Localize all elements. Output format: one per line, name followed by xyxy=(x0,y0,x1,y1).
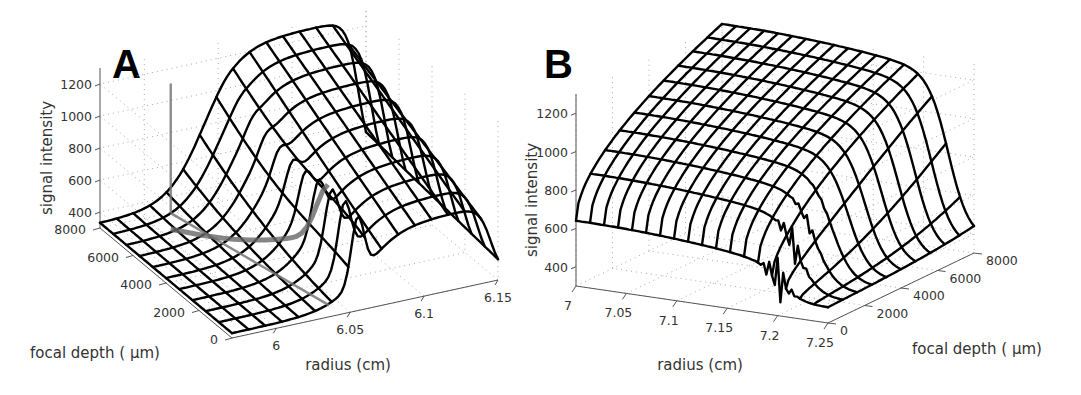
z-tick-label: 1000 xyxy=(60,109,92,124)
z-tick-label: 600 xyxy=(68,173,92,188)
x-tick xyxy=(774,316,778,322)
z-tick xyxy=(571,152,576,154)
y-tick-label: 6000 xyxy=(950,271,982,286)
x-tick-label: 7.05 xyxy=(604,305,632,320)
surface-mesh-b xyxy=(576,24,974,307)
z-tick xyxy=(571,267,576,269)
mesh-line-constant-radius xyxy=(786,96,932,288)
z-tick-label: 800 xyxy=(544,183,568,198)
z-tick-label: 800 xyxy=(68,141,92,156)
y-tick xyxy=(225,338,232,340)
x-tick xyxy=(723,308,727,314)
panel-a: A 4006008001000120066.056.16.15020004000… xyxy=(0,0,540,395)
y-tick-label: 6000 xyxy=(87,250,119,265)
x-tick-label: 7 xyxy=(564,298,572,313)
y-tick-label: 0 xyxy=(210,332,218,347)
z-tick xyxy=(95,116,100,118)
x-axis-title: radius (cm) xyxy=(657,356,743,374)
z-tick xyxy=(571,190,576,192)
z-tick-label: 400 xyxy=(544,260,568,275)
y-tick xyxy=(159,283,166,285)
z-tick-label: 600 xyxy=(544,221,568,236)
z-tick xyxy=(571,228,576,230)
y-tick-label: 8000 xyxy=(54,222,86,237)
mesh-line-constant-radius xyxy=(366,132,498,259)
y-axis-title: focal depth ( µm) xyxy=(30,344,160,362)
gridline-y xyxy=(686,42,938,271)
z-tick xyxy=(95,148,100,150)
x-tick xyxy=(824,323,828,329)
y-tick xyxy=(865,306,873,307)
z-tick xyxy=(95,84,100,86)
z-tick xyxy=(95,180,100,182)
x-tick-label: 7.25 xyxy=(806,335,834,350)
gridline-y xyxy=(199,93,465,311)
y-tick-label: 0 xyxy=(840,323,848,338)
x-axis-title: radius (cm) xyxy=(305,356,391,374)
x-tick-label: 7.2 xyxy=(760,328,780,343)
y-tick xyxy=(938,271,946,272)
x-tick xyxy=(673,301,677,307)
x-tick-label: 6.05 xyxy=(336,322,364,337)
x-tick xyxy=(622,293,626,299)
y-tick xyxy=(901,288,909,289)
mesh-line-constant-radius xyxy=(316,28,448,215)
y-tick xyxy=(974,253,982,254)
y-tick xyxy=(126,256,133,258)
y-tick xyxy=(93,228,100,230)
y-tick-label: 4000 xyxy=(120,277,152,292)
panel-b: B 4006008001000120077.057.17.157.27.2502… xyxy=(540,0,1081,395)
gridline-z xyxy=(722,43,974,150)
z-tick-label: 1200 xyxy=(60,77,92,92)
z-tick xyxy=(571,113,576,115)
y-tick-label: 2000 xyxy=(153,305,185,320)
y-axis-title: focal depth ( µm) xyxy=(912,340,1042,358)
mesh-line-constant-depth xyxy=(605,150,857,292)
y-tick-label: 8000 xyxy=(986,253,1018,268)
z-axis-title: signal intensity xyxy=(38,101,56,215)
x-tick-label: 7.1 xyxy=(659,313,679,328)
x-tick-label: 6 xyxy=(272,338,280,353)
z-axis-title: signal intensity xyxy=(523,143,541,257)
surface-plot-b: 4006008001000120077.057.17.157.27.250200… xyxy=(540,0,1081,395)
z-tick-label: 1200 xyxy=(536,106,568,121)
y-tick-label: 4000 xyxy=(913,288,945,303)
x-tick-label: 6.15 xyxy=(484,290,512,305)
y-tick-label: 2000 xyxy=(877,306,909,321)
surface-plot-a: 4006008001000120066.056.16.1502000400060… xyxy=(0,0,540,395)
x-tick xyxy=(572,286,576,292)
z-tick-label: 400 xyxy=(68,205,92,220)
x-tick-label: 6.1 xyxy=(414,306,434,321)
overlay-boundary-trace xyxy=(171,185,328,241)
gridline-x xyxy=(626,31,772,293)
y-tick xyxy=(828,323,836,324)
x-tick-label: 7.15 xyxy=(705,320,733,335)
y-tick xyxy=(192,311,199,313)
z-tick xyxy=(95,212,100,214)
